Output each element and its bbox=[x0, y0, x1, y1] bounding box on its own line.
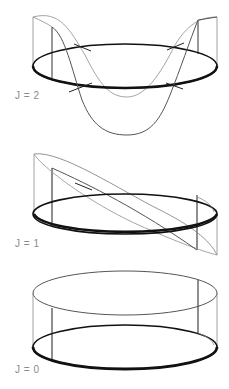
top-ellipse bbox=[33, 271, 217, 315]
tilted-line-dark bbox=[52, 168, 197, 250]
ring-front-thick bbox=[33, 347, 217, 369]
label-j1: J = 1 bbox=[15, 238, 39, 249]
diagram-canvas bbox=[0, 0, 229, 389]
label-j0: J = 0 bbox=[15, 364, 39, 375]
panel-j2-drawing bbox=[33, 16, 217, 135]
ring-front-thick bbox=[33, 66, 217, 88]
tilted-ring-back bbox=[34, 154, 217, 255]
wall-top-curve bbox=[33, 17, 52, 27]
node-tick bbox=[75, 183, 92, 190]
panel-j0-drawing bbox=[33, 271, 217, 369]
label-j2: J = 2 bbox=[15, 90, 39, 101]
wave-front bbox=[52, 17, 217, 135]
ring-ellipse bbox=[33, 194, 217, 234]
panel-j1-drawing bbox=[33, 154, 217, 255]
wave-back bbox=[33, 16, 217, 97]
